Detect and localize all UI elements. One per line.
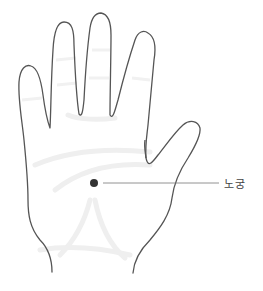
hand-outline xyxy=(19,13,200,273)
hand-outline-illustration xyxy=(0,0,263,291)
hand-diagram: 노궁 xyxy=(0,0,263,291)
acupoint-dot xyxy=(90,179,98,187)
acupoint-label: 노궁 xyxy=(224,175,245,191)
